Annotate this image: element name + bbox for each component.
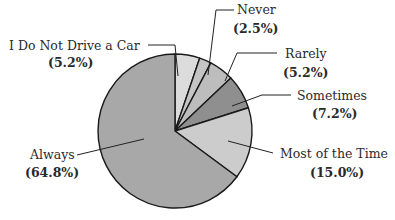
pie-chart: I Do Not Drive a Car (5.2%) Never (2.5%)…: [0, 0, 395, 220]
label-no-car: I Do Not Drive a Car: [9, 38, 140, 53]
pie-slices: [98, 54, 252, 208]
pct-no-car: (5.2%): [48, 55, 93, 70]
pct-sometimes: (7.2%): [312, 106, 357, 121]
label-always: Always: [29, 147, 75, 162]
label-rarely: Rarely: [285, 46, 328, 61]
label-sometimes: Sometimes: [297, 88, 367, 103]
pct-never: (2.5%): [233, 21, 278, 36]
label-most: Most of the Time: [280, 146, 388, 161]
leader-rarely: [225, 53, 277, 81]
pct-rarely: (5.2%): [283, 65, 328, 80]
label-never: Never: [237, 2, 276, 17]
pct-most: (15.0%): [310, 165, 364, 180]
pct-always: (64.8%): [25, 165, 79, 180]
